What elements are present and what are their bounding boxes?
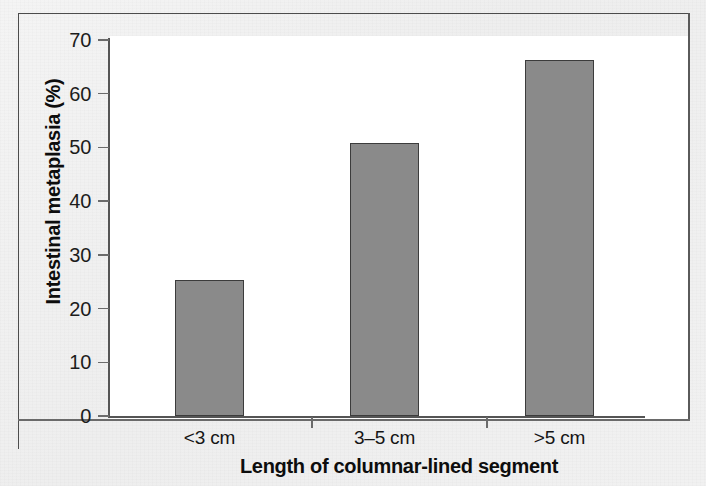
x-category-label-0: <3 cm xyxy=(140,427,280,449)
y-tick-label: 20 xyxy=(69,297,91,320)
x-axis-title: Length of columnar-lined segment xyxy=(110,455,688,478)
y-tick-10: 10 xyxy=(98,362,109,364)
y-tick-40: 40 xyxy=(98,200,109,202)
bar-1 xyxy=(350,143,419,416)
y-tick-label: 70 xyxy=(69,29,91,52)
y-tick-label: 50 xyxy=(69,136,91,159)
y-tick-label: 30 xyxy=(69,243,91,266)
figure-border-bottom xyxy=(18,419,690,421)
x-tick-0 xyxy=(311,417,313,428)
figure-page: 010203040506070 <3 cm3–5 cm>5 cm Length … xyxy=(0,0,706,486)
bar-2 xyxy=(525,60,594,416)
y-tick-label: 0 xyxy=(80,405,91,428)
x-axis-line xyxy=(108,416,645,418)
y-tick-60: 60 xyxy=(98,93,109,95)
y-tick-30: 30 xyxy=(98,254,109,256)
y-tick-70: 70 xyxy=(98,39,109,41)
y-tick-label: 60 xyxy=(69,82,91,105)
y-axis-title: Intestinal metaplasia (%) xyxy=(42,27,65,357)
x-category-label-2: >5 cm xyxy=(490,427,630,449)
figure-border-right xyxy=(688,13,690,421)
y-tick-0: 0 xyxy=(98,415,109,417)
y-tick-20: 20 xyxy=(98,308,109,310)
bar-0 xyxy=(175,280,244,416)
x-category-label-1: 3–5 cm xyxy=(315,427,455,449)
y-tick-label: 40 xyxy=(69,190,91,213)
x-tick-1 xyxy=(486,417,488,428)
y-tick-50: 50 xyxy=(98,147,109,149)
y-tick-label: 10 xyxy=(69,351,91,374)
